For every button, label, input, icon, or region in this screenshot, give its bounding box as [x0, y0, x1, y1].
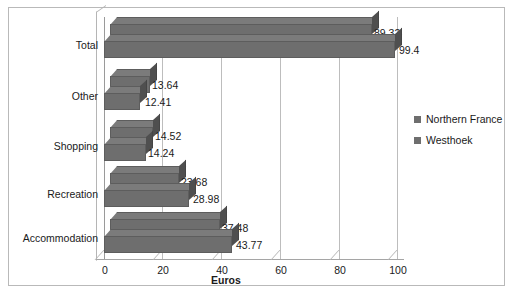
x-axis-title: Euros — [211, 274, 241, 286]
value-label-shopping-northern-france: 14.52 — [155, 130, 181, 142]
xtick-label-20: 20 — [143, 264, 183, 276]
bar-accommodation-westhoek — [104, 236, 232, 253]
legend-label-westhoek: Westhoek — [426, 134, 473, 146]
value-label-accommodation-westhoek: 43.77 — [236, 239, 262, 251]
bar-shopping-westhoek — [104, 144, 146, 161]
bar-recreation-westhoek — [104, 190, 189, 207]
xtick-label-100: 100 — [378, 264, 418, 276]
legend-label-northern-france: Northern France — [426, 113, 502, 125]
xtick-label-0: 0 — [85, 264, 125, 276]
value-label-shopping-westhoek: 14.24 — [148, 147, 174, 159]
x-axis-line — [96, 259, 404, 260]
value-label-other-westhoek: 12.41 — [145, 96, 171, 108]
bar-front-face — [104, 144, 146, 161]
category-label-recreation: Recreation — [47, 188, 98, 200]
bar-other-westhoek — [104, 93, 140, 110]
legend-swatch-icon — [414, 137, 421, 144]
value-label-other-northern-france: 13.64 — [152, 79, 178, 91]
category-label-other: Other — [72, 90, 98, 102]
xtick-label-60: 60 — [261, 264, 301, 276]
gridline-100 — [397, 17, 398, 260]
legend-swatch-icon — [414, 116, 421, 123]
xtick-label-80: 80 — [320, 264, 360, 276]
legend-item-northern-france[interactable]: Northern France — [414, 113, 502, 125]
category-axis: Total Other Shopping Recreation Accommod… — [0, 0, 98, 295]
category-label-total: Total — [76, 39, 98, 51]
bar-front-face — [104, 190, 189, 207]
legend: Northern France Westhoek — [414, 113, 502, 155]
bar-front-face — [104, 93, 140, 110]
category-label-shopping: Shopping — [54, 140, 98, 152]
chart-container: Total Other Shopping Recreation Accommod… — [0, 0, 514, 295]
value-label-total-westhoek: 99.4 — [399, 44, 419, 56]
bar-front-face — [104, 41, 395, 58]
value-label-recreation-westhoek: 28.98 — [193, 193, 219, 205]
legend-item-westhoek[interactable]: Westhoek — [414, 134, 502, 146]
bar-total-westhoek — [104, 41, 395, 58]
bar-front-face — [104, 236, 232, 253]
category-label-accommodation: Accommodation — [23, 232, 98, 244]
